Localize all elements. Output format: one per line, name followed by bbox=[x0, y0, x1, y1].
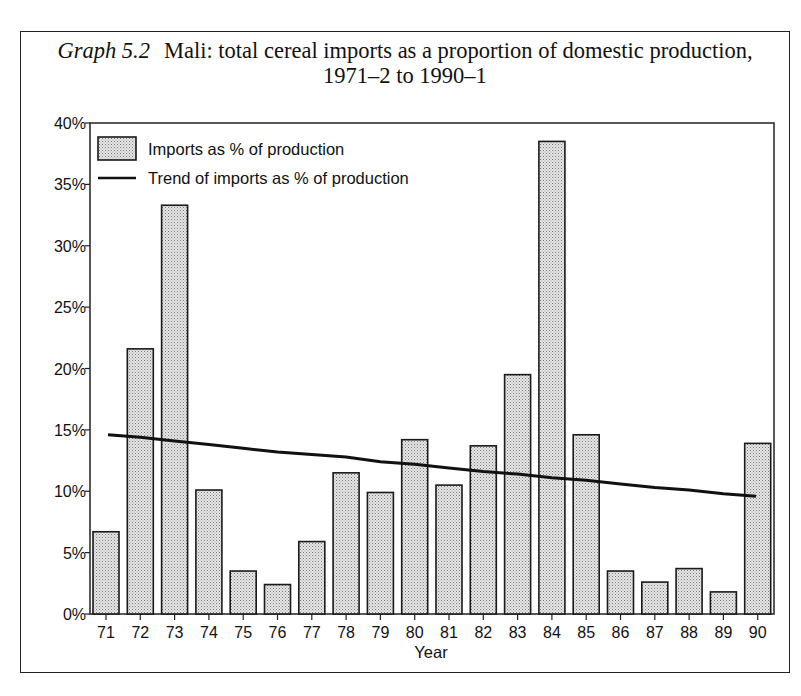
y-tick-label: 40% bbox=[54, 115, 86, 132]
x-tick-label: 79 bbox=[372, 624, 390, 641]
x-tick-label: 72 bbox=[131, 624, 149, 641]
bar-90 bbox=[745, 443, 771, 614]
bar-75 bbox=[230, 571, 256, 614]
y-tick-label: 10% bbox=[54, 483, 86, 500]
y-tick-label: 25% bbox=[54, 299, 86, 316]
bar-74 bbox=[196, 490, 222, 614]
bar-83 bbox=[505, 375, 531, 614]
bar-88 bbox=[676, 569, 702, 614]
x-tick-label: 74 bbox=[200, 624, 218, 641]
x-tick-label: 89 bbox=[715, 624, 733, 641]
x-tick-label: 75 bbox=[234, 624, 252, 641]
plot-border bbox=[90, 123, 774, 614]
y-tick-label: 30% bbox=[54, 238, 86, 255]
bar-85 bbox=[573, 435, 599, 614]
bar-chart: 0%5%10%15%20%25%30%35%40% 71727374757677… bbox=[0, 0, 801, 696]
bar-73 bbox=[162, 205, 188, 614]
legend: Imports as % of productionTrend of impor… bbox=[98, 137, 409, 187]
x-tick-label: 87 bbox=[646, 624, 664, 641]
bar-89 bbox=[710, 592, 736, 614]
y-tick-label: 5% bbox=[63, 545, 86, 562]
legend-label-trend: Trend of imports as % of production bbox=[148, 169, 409, 187]
plot-area bbox=[90, 123, 774, 614]
legend-swatch-bar bbox=[98, 137, 136, 160]
x-tick-label: 81 bbox=[440, 624, 458, 641]
x-tick-label: 73 bbox=[166, 624, 184, 641]
y-tick-label: 0% bbox=[63, 606, 86, 623]
x-tick-label: 86 bbox=[612, 624, 630, 641]
x-axis-title: Year bbox=[414, 643, 448, 661]
x-tick-label: 88 bbox=[680, 624, 698, 641]
trend-line bbox=[108, 435, 756, 496]
bar-series bbox=[93, 141, 771, 614]
y-tick-label: 15% bbox=[54, 422, 86, 439]
trend-polyline bbox=[108, 435, 756, 496]
x-tick-label: 80 bbox=[406, 624, 424, 641]
x-tick-label: 76 bbox=[269, 624, 287, 641]
x-axis: 7172737475767778798081828384858687888990… bbox=[97, 614, 767, 661]
bar-79 bbox=[367, 492, 393, 614]
bar-76 bbox=[265, 585, 291, 614]
y-axis: 0%5%10%15%20%25%30%35%40% bbox=[54, 115, 90, 623]
bar-81 bbox=[436, 485, 462, 614]
bar-77 bbox=[299, 542, 325, 614]
x-tick-label: 83 bbox=[509, 624, 527, 641]
bar-86 bbox=[608, 571, 634, 614]
x-tick-label: 90 bbox=[749, 624, 767, 641]
x-tick-label: 82 bbox=[474, 624, 492, 641]
x-tick-label: 78 bbox=[337, 624, 355, 641]
legend-label-bars: Imports as % of production bbox=[148, 140, 344, 158]
x-tick-label: 77 bbox=[303, 624, 321, 641]
x-tick-label: 71 bbox=[97, 624, 115, 641]
y-tick-label: 20% bbox=[54, 361, 86, 378]
y-tick-label: 35% bbox=[54, 176, 86, 193]
bar-78 bbox=[333, 473, 359, 614]
bar-71 bbox=[93, 532, 119, 614]
bar-72 bbox=[127, 349, 153, 614]
x-tick-label: 85 bbox=[577, 624, 595, 641]
x-tick-label: 84 bbox=[543, 624, 561, 641]
bar-87 bbox=[642, 582, 668, 614]
bar-84 bbox=[539, 141, 565, 614]
